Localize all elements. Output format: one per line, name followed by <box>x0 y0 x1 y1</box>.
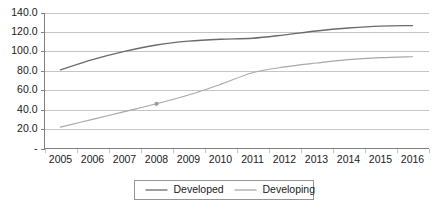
x-tick-label: 2009 <box>177 153 201 165</box>
legend-label: Developed <box>174 183 224 195</box>
data-point-markers <box>154 102 158 106</box>
x-tick-label: 2016 <box>401 153 425 165</box>
x-tick-label: 2005 <box>49 153 73 165</box>
y-tick-label: 60.0 <box>17 83 38 95</box>
x-tick-label: 2007 <box>113 153 137 165</box>
x-tick-label: 2006 <box>81 153 105 165</box>
chart-legend[interactable]: DevelopedDeveloping <box>135 181 316 200</box>
x-tick-label: 2014 <box>337 153 361 165</box>
x-tick-label: 2011 <box>241 153 264 165</box>
chart-background <box>0 0 437 210</box>
chart-canvas: -20.040.060.080.0100.0120.0140.0 2005200… <box>0 0 437 210</box>
x-tick-label: 2015 <box>369 153 393 165</box>
x-tick-label: 2008 <box>145 153 169 165</box>
y-tick-label: 120.0 <box>11 25 37 37</box>
developing-2008-marker-icon <box>154 102 158 106</box>
y-tick-label: 20.0 <box>17 122 38 134</box>
y-tick-label: - <box>34 142 38 154</box>
x-tick-label: 2010 <box>209 153 233 165</box>
y-tick-label: 80.0 <box>17 64 38 76</box>
y-tick-label: 100.0 <box>11 44 37 56</box>
x-tick-label: 2012 <box>273 153 297 165</box>
line-chart: -20.040.060.080.0100.0120.0140.0 2005200… <box>0 0 437 210</box>
y-tick-label: 40.0 <box>17 103 38 115</box>
legend-label: Developing <box>263 183 316 195</box>
y-tick-label: 140.0 <box>11 6 37 18</box>
x-tick-label: 2013 <box>305 153 329 165</box>
